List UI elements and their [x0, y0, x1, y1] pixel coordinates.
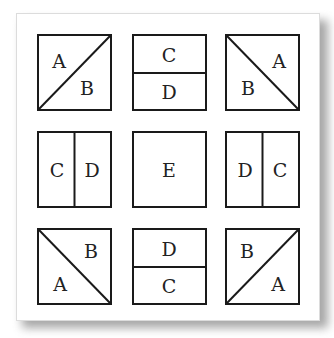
- diagonal-line: [39, 36, 110, 109]
- cell-r3c1-diagonal-down: B A: [37, 228, 112, 305]
- region-label: C: [273, 161, 288, 180]
- diagonal-line: [227, 230, 298, 303]
- region-label: D: [161, 83, 176, 102]
- cell-r3c2-horizontal: D C: [132, 228, 207, 305]
- region-label: C: [162, 46, 177, 65]
- cell-r3c3-diagonal-up: B A: [225, 228, 300, 305]
- diagonal-line: [39, 230, 110, 303]
- region-label: B: [84, 242, 98, 261]
- region-label: D: [237, 161, 252, 180]
- cell-r1c1-diagonal-up: A B: [37, 34, 112, 111]
- region-label: A: [52, 52, 66, 71]
- region-label: D: [84, 161, 99, 180]
- region-label: B: [240, 242, 254, 261]
- region-label: D: [161, 240, 176, 259]
- cell-r2c2-whole: E: [132, 131, 207, 208]
- cell-r2c1-vertical: C D: [37, 131, 112, 208]
- region-label: E: [162, 161, 176, 180]
- region-label: C: [162, 277, 177, 296]
- diagonal-line: [227, 36, 298, 109]
- region-label: C: [50, 161, 65, 180]
- region-label: B: [241, 79, 255, 98]
- cell-r2c3-vertical: D C: [225, 131, 300, 208]
- cell-r1c3-diagonal-down: A B: [225, 34, 300, 111]
- region-label: A: [272, 52, 286, 71]
- region-label: A: [53, 275, 67, 294]
- region-label: A: [271, 275, 285, 294]
- region-label: B: [80, 79, 94, 98]
- cell-r1c2-horizontal: C D: [132, 34, 207, 111]
